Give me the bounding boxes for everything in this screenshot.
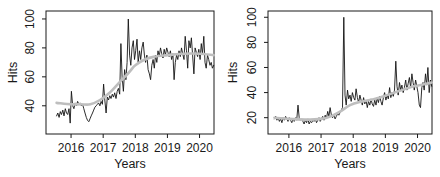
right-chart-svg: 2016201720182019202020406080100YearsHits xyxy=(220,0,440,177)
x-axis-tick-label: 2019 xyxy=(154,141,181,155)
trend-line xyxy=(57,53,214,104)
right-chart: 2016201720182019202020406080100YearsHits xyxy=(220,0,440,177)
x-axis-tick-label: 2019 xyxy=(372,141,399,155)
x-axis-tick-label: 2017 xyxy=(308,141,335,155)
y-axis-tick-label: 60 xyxy=(245,60,259,74)
figure: 20162017201820192020406080100YearsHits 2… xyxy=(0,0,440,177)
x-axis-tick-label: 2020 xyxy=(186,141,213,155)
x-axis-tick-label: 2016 xyxy=(58,141,85,155)
x-axis-tick-label: 2020 xyxy=(404,141,431,155)
y-axis-tick-label: 80 xyxy=(245,35,259,49)
y-axis-tick-label: 100 xyxy=(23,9,37,29)
y-axis-tick-label: 20 xyxy=(245,111,259,125)
y-axis-title: Hits xyxy=(226,62,240,84)
left-chart: 20162017201820192020406080100YearsHits xyxy=(0,0,220,177)
left-chart-svg: 20162017201820192020406080100YearsHits xyxy=(0,0,220,177)
x-axis-tick-label: 2018 xyxy=(340,141,367,155)
y-axis-tick-label: 80 xyxy=(23,41,37,55)
x-axis-title: Years xyxy=(334,157,366,171)
y-axis-tick-label: 60 xyxy=(23,70,37,84)
x-axis-tick-label: 2018 xyxy=(122,141,149,155)
plot-border xyxy=(268,11,432,134)
trend-line xyxy=(274,83,431,120)
y-axis-title: Hits xyxy=(6,62,20,84)
x-axis-title: Years xyxy=(114,157,146,171)
y-axis-tick-label: 100 xyxy=(245,7,259,27)
x-axis-tick-label: 2016 xyxy=(276,141,303,155)
hits-series-line xyxy=(274,17,431,124)
y-axis-tick-label: 40 xyxy=(245,86,259,100)
y-axis-tick-label: 40 xyxy=(23,99,37,113)
x-axis-tick-label: 2017 xyxy=(90,141,117,155)
hits-series-line xyxy=(57,19,214,123)
